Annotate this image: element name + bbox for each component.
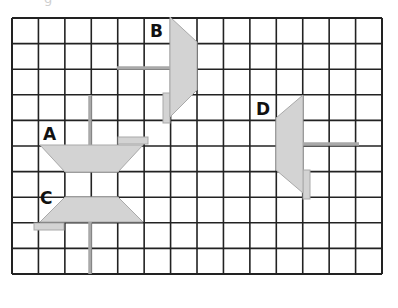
label-d: D — [256, 101, 270, 118]
shape-trapezoid — [40, 197, 143, 222]
grid-diagram — [0, 0, 398, 308]
shape-c — [34, 197, 143, 274]
label-c: C — [40, 190, 52, 207]
shape-tab — [303, 170, 310, 199]
grid-figure: g A B C D — [0, 0, 398, 308]
shape-trapezoid — [170, 17, 197, 117]
clipped-title-fragment: g — [44, 0, 52, 6]
shape-trapezoid — [40, 145, 143, 172]
shape-tab — [163, 93, 170, 123]
label-a: A — [43, 126, 56, 143]
shape-tab — [34, 223, 64, 230]
shape-d — [276, 95, 359, 199]
shape-tab — [118, 137, 148, 144]
shape-a — [40, 95, 148, 172]
label-b: B — [150, 23, 163, 40]
shape-trapezoid — [276, 95, 303, 193]
